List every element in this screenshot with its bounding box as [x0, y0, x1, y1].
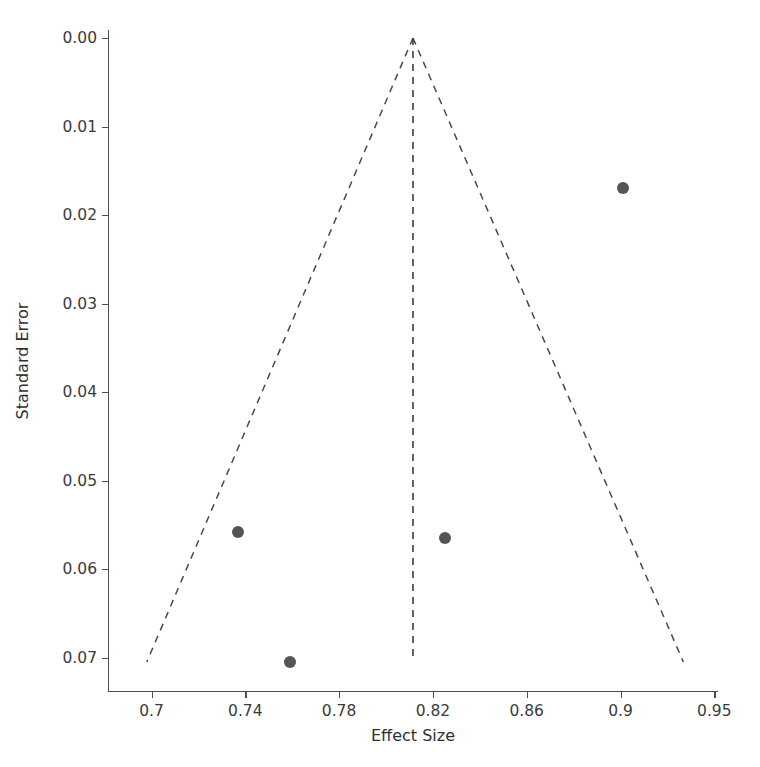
x-tick-mark [245, 692, 246, 698]
x-tick-label: 0.82 [416, 702, 451, 720]
funnel-confidence-region [108, 30, 718, 692]
x-tick-mark [152, 692, 153, 698]
y-tick-label: 0.02 [62, 206, 97, 224]
x-tick-mark [714, 692, 715, 698]
y-tick-label: 0.06 [62, 560, 97, 578]
x-axis-label: Effect Size [108, 726, 718, 745]
data-point[interactable] [284, 656, 296, 668]
x-tick-label: 0.9 [608, 702, 633, 720]
x-tick-label: 0.86 [509, 702, 544, 720]
x-tick-mark [339, 692, 340, 698]
x-tick-mark [433, 692, 434, 698]
y-tick-label: 0.03 [62, 295, 97, 313]
y-tick-label: 0.04 [62, 383, 97, 401]
data-point[interactable] [439, 532, 451, 544]
y-tick-label: 0.07 [62, 649, 97, 667]
data-point[interactable] [617, 182, 629, 194]
x-tick-mark [527, 692, 528, 698]
x-tick-label: 0.74 [228, 702, 263, 720]
x-tick-mark [621, 692, 622, 698]
y-axis-label: Standard Error [13, 303, 32, 420]
y-tick-label: 0.00 [62, 29, 97, 47]
x-tick-label: 0.78 [322, 702, 357, 720]
funnel-plot-figure: 0.000.010.020.030.040.050.060.07 0.70.74… [0, 0, 760, 767]
plot-area: 0.000.010.020.030.040.050.060.07 0.70.74… [108, 30, 718, 692]
y-tick-label: 0.05 [62, 472, 97, 490]
y-tick-label: 0.01 [62, 118, 97, 136]
data-point[interactable] [232, 526, 244, 538]
funnel-right-leg [413, 38, 683, 662]
funnel-left-leg [147, 38, 413, 662]
x-tick-label: 0.95 [697, 702, 732, 720]
x-tick-label: 0.7 [139, 702, 164, 720]
